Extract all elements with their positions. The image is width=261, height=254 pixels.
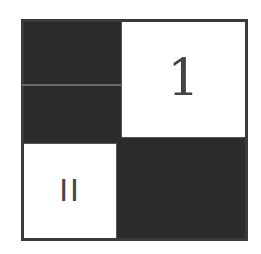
cell-bottom-left: II (24, 143, 117, 238)
cell-label-one: 1 (168, 53, 200, 103)
cell-label-two: II (59, 176, 81, 206)
divider-line (22, 84, 121, 86)
cell-top-right: 1 (121, 22, 245, 138)
